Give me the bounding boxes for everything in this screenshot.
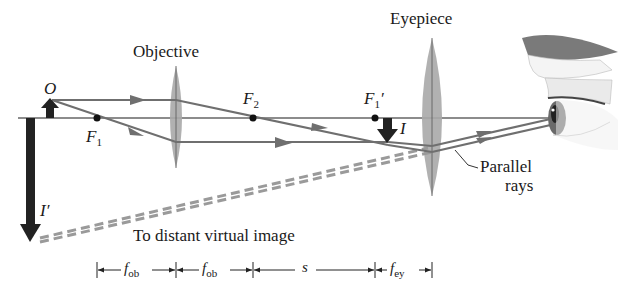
objective-label: Objective: [133, 42, 199, 62]
f-ey-label: fey: [390, 260, 405, 279]
s-label: s: [302, 259, 308, 276]
f-ob-2-label: fob: [202, 260, 217, 279]
image-label: I: [400, 119, 406, 139]
f1-prime-letter: F: [364, 89, 374, 108]
compound-microscope-diagram: Objective Eyepiece O F1 F2 F1′ I I′ Para…: [0, 0, 628, 304]
f1-prime-label: F1′: [364, 89, 384, 110]
intermediate-image-arrow: [377, 118, 398, 143]
f1-subscript: 1: [96, 136, 102, 148]
final-image-label: I′: [40, 201, 49, 221]
eyepiece-label: Eyepiece: [390, 9, 452, 29]
f-ey-subscript: ey: [394, 267, 404, 279]
virtual-image-label: To distant virtual image: [133, 226, 295, 246]
objective-rays: [52, 100, 555, 152]
focal-point-f1-prime: [372, 115, 379, 122]
diagram-canvas: [0, 0, 628, 304]
eyepiece-lens: [422, 38, 442, 196]
f-ob-1-label: fob: [124, 260, 139, 279]
f-ob-2-subscript: ob: [206, 267, 217, 279]
objective-lens: [170, 66, 182, 168]
f-ob-1-subscript: ob: [128, 267, 139, 279]
eye-icon: [522, 35, 618, 150]
f2-label: F2: [243, 89, 259, 110]
object-label: O: [44, 79, 56, 99]
f1-label: F1: [86, 127, 102, 148]
focal-point-f2: [250, 115, 257, 122]
final-image-arrow: [20, 118, 41, 242]
f1-prime-mark: ′: [380, 89, 384, 108]
parallel-rays-label-line2: rays: [505, 176, 533, 196]
f2-subscript: 2: [253, 98, 259, 110]
dimension-line: [97, 262, 432, 278]
parallel-rays-leader: [455, 150, 478, 168]
parallel-rays-label-line1: Parallel: [480, 157, 532, 177]
f2-letter: F: [243, 89, 253, 108]
f1-letter: F: [86, 127, 96, 146]
focal-point-f1: [94, 115, 101, 122]
